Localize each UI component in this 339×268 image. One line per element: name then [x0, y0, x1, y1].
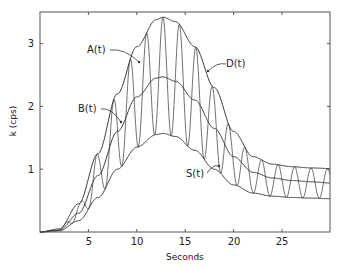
arrow-a-icon [110, 50, 139, 62]
y-tick-3: 3 [20, 38, 34, 49]
x-tick-10: 10 [127, 236, 147, 247]
chart-curves [40, 17, 330, 232]
y-axis-label: k (cps) [8, 106, 18, 136]
label-b: B(t) [78, 103, 97, 114]
y-tick-2: 2 [20, 101, 34, 112]
x-tick-20: 20 [224, 236, 244, 247]
x-axis-label: Seconds [166, 252, 204, 262]
chart-canvas [0, 0, 339, 268]
curve-b-middle [40, 77, 330, 232]
curve-s-lower-envelope [40, 133, 330, 232]
label-d: D(t) [226, 58, 245, 69]
y-tick-1: 1 [20, 164, 34, 175]
x-tick-5: 5 [79, 236, 99, 247]
arrow-d-icon [208, 64, 226, 71]
arrow-s-icon-head [218, 165, 220, 167]
arrow-a-icon-head [138, 61, 140, 63]
x-tick-15: 15 [175, 236, 195, 247]
arrow-d-icon-head [207, 70, 209, 72]
arrow-b-icon-head [120, 121, 122, 123]
curve-d-oscillation [40, 17, 330, 232]
label-a: A(t) [87, 44, 106, 55]
curve-a-upper-envelope [40, 17, 330, 232]
label-s: S(t) [186, 168, 204, 179]
x-tick-25: 25 [272, 236, 292, 247]
